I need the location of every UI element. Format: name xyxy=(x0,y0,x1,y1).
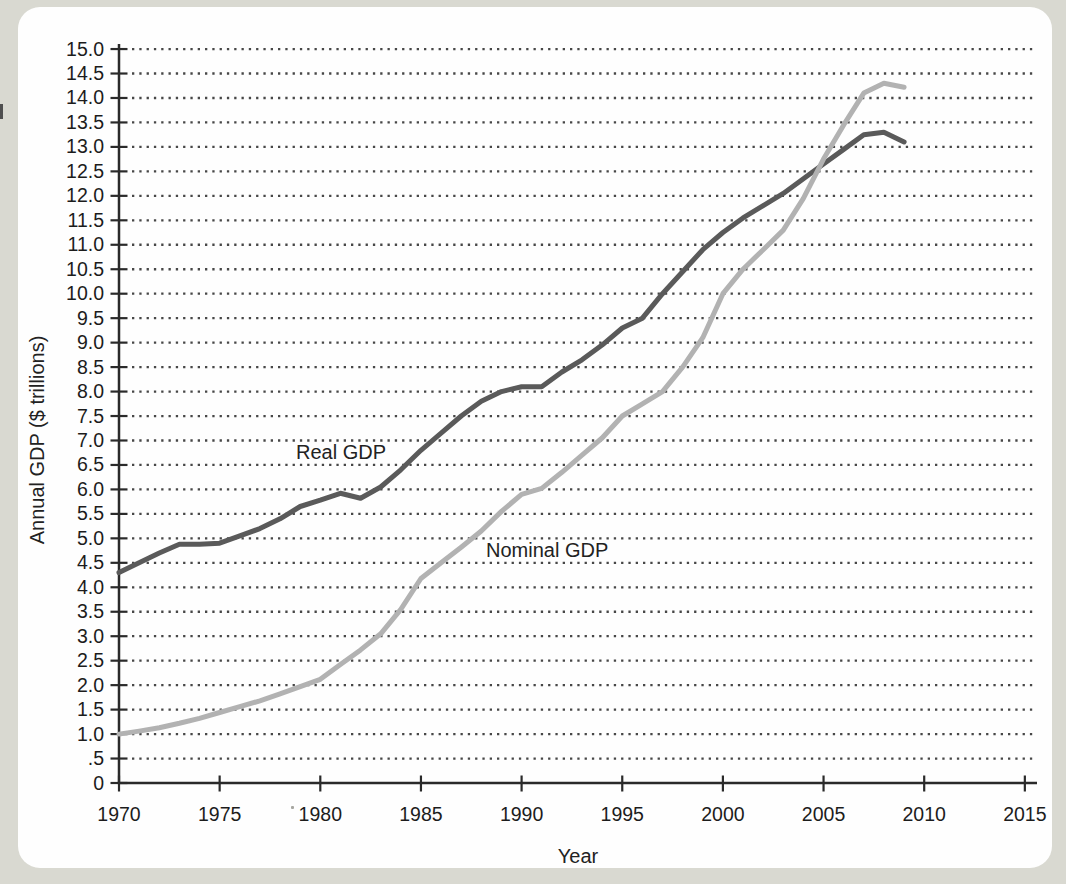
x-tick-label: 1985 xyxy=(399,803,443,825)
y-tick-label: 13.0 xyxy=(66,135,104,157)
y-tick-label: 12.0 xyxy=(66,184,104,206)
y-tick-label: 15.0 xyxy=(66,38,104,60)
y-tick-label: 9.0 xyxy=(77,331,104,353)
y-tick-label: 6.0 xyxy=(77,478,104,500)
gdp-line-chart: 0.51.01.52.02.53.03.54.04.55.05.56.06.57… xyxy=(0,0,1066,884)
y-tick-label: 6.5 xyxy=(77,453,104,475)
y-tick-label: 1.0 xyxy=(77,723,104,745)
y-tick-label: 11.0 xyxy=(67,233,104,255)
x-axis-title: Year xyxy=(558,845,598,868)
y-axis-title: Annual GDP ($ trillions) xyxy=(26,336,49,545)
print-dot-artifact xyxy=(291,806,294,809)
x-tick-label: 1975 xyxy=(198,803,242,825)
x-tick-label: 1970 xyxy=(97,803,141,825)
y-tick-label: 10.5 xyxy=(66,258,104,280)
x-tick-label: 1990 xyxy=(500,803,544,825)
y-tick-label: 3.0 xyxy=(77,625,104,647)
x-tick-label: 2000 xyxy=(701,803,745,825)
y-tick-label: 4.5 xyxy=(77,551,104,573)
x-tick-label: 1995 xyxy=(601,803,645,825)
y-tick-label: 8.0 xyxy=(77,380,104,402)
nominal-gdp-line-label: Nominal GDP xyxy=(486,539,608,562)
real-gdp-line-label: Real GDP xyxy=(296,441,386,464)
x-tick-label: 2015 xyxy=(1003,803,1047,825)
y-tick-label: 8.5 xyxy=(77,356,104,378)
x-tick-label: 2010 xyxy=(903,803,947,825)
y-tick-label: 13.5 xyxy=(66,111,104,133)
y-tick-label: 1.5 xyxy=(77,698,104,720)
y-tick-label: 12.5 xyxy=(66,160,104,182)
y-tick-label: 9.5 xyxy=(77,307,104,329)
y-tick-label: 11.5 xyxy=(67,209,104,231)
y-tick-label: 7.0 xyxy=(77,429,104,451)
y-tick-label: 5.0 xyxy=(77,527,104,549)
y-tick-label: 10.0 xyxy=(66,282,104,304)
y-tick-label: 7.5 xyxy=(77,405,104,427)
y-tick-label: 2.0 xyxy=(77,674,104,696)
nominal-gdp-line xyxy=(119,83,904,734)
y-tick-label: 0 xyxy=(93,772,104,794)
y-tick-label: 14.5 xyxy=(66,62,104,84)
y-tick-label: 2.5 xyxy=(77,649,104,671)
page-edge-artifact xyxy=(0,104,3,119)
y-tick-label: 3.5 xyxy=(77,600,104,622)
real-gdp-line xyxy=(119,132,904,572)
x-tick-label: 1980 xyxy=(299,803,343,825)
x-tick-label: 2005 xyxy=(802,803,846,825)
y-tick-label: .5 xyxy=(88,747,104,769)
y-tick-label: 5.5 xyxy=(77,502,104,524)
y-tick-label: 14.0 xyxy=(66,86,104,108)
y-tick-label: 4.0 xyxy=(77,576,104,598)
